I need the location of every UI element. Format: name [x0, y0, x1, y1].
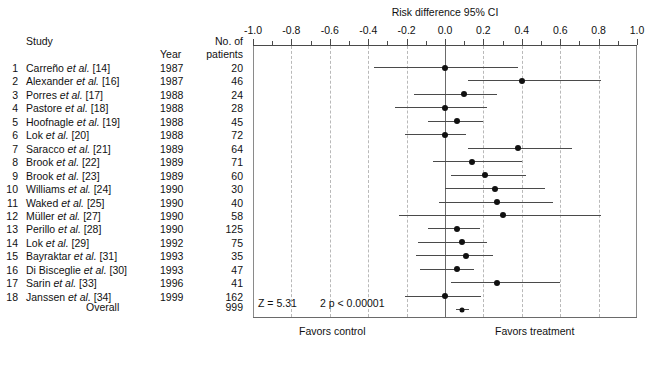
x-tick-label: -0.6 — [321, 24, 339, 36]
study-npatients: 45 — [200, 116, 243, 128]
study-npatients: 46 — [200, 75, 243, 87]
gridline — [291, 46, 292, 317]
point-estimate-marker — [442, 132, 448, 138]
row-index: 8 — [2, 156, 18, 168]
plot-bottom-border — [253, 317, 637, 318]
study-name: Pastore et al. [18] — [26, 102, 108, 114]
overall-npatients: 999 — [200, 302, 243, 313]
point-estimate-marker — [519, 78, 525, 84]
forest-plot-panel: Risk difference 95% CI -1.0-0.8-0.6-0.4-… — [253, 0, 637, 365]
row-index: 11 — [2, 197, 18, 209]
study-year: 1989 — [160, 156, 192, 168]
point-estimate-marker — [494, 280, 500, 286]
study-npatients: 64 — [200, 143, 243, 155]
point-estimate-marker — [442, 105, 448, 111]
gridline — [560, 46, 561, 317]
point-estimate-marker — [459, 239, 465, 245]
column-header-npatients-line1: No. of — [200, 36, 243, 47]
point-estimate-marker — [454, 266, 460, 272]
row-index: 14 — [2, 237, 18, 249]
study-year: 1993 — [160, 250, 192, 262]
study-npatients: 125 — [200, 223, 243, 235]
confidence-interval-line — [420, 269, 474, 270]
study-name: Carreño et al. [14] — [26, 62, 110, 74]
study-name: Waked et al. [25] — [26, 197, 104, 209]
row-index: 9 — [2, 170, 18, 182]
point-estimate-marker — [494, 199, 500, 205]
x-tick-label: 0.0 — [438, 24, 453, 36]
confidence-interval-line — [418, 242, 487, 243]
study-year: 1999 — [160, 291, 192, 303]
study-year: 1988 — [160, 89, 192, 101]
study-year: 1990 — [160, 183, 192, 195]
study-name: Saracco et al. [21] — [26, 143, 111, 155]
x-tick-label: -1.0 — [244, 24, 262, 36]
study-year: 1990 — [160, 223, 192, 235]
study-year: 1989 — [160, 170, 192, 182]
study-year: 1989 — [160, 143, 192, 155]
column-header-year: Year — [160, 49, 181, 60]
study-name: Lok et al. [29] — [26, 237, 89, 249]
study-name: Alexander et al. [16] — [26, 75, 119, 87]
favors-control-label: Favors control — [299, 325, 366, 337]
confidence-interval-line — [414, 94, 497, 95]
x-tick-label: 0.6 — [553, 24, 568, 36]
study-name: Di Bisceglie et al. [30] — [26, 264, 127, 276]
point-estimate-marker — [482, 172, 488, 178]
row-index: 16 — [2, 264, 18, 276]
study-npatients: 75 — [200, 237, 243, 249]
row-index: 5 — [2, 116, 18, 128]
plot-left-border — [253, 46, 254, 317]
x-tick-label: 0.8 — [591, 24, 606, 36]
p-value-label: 2 p < 0.00001 — [320, 297, 385, 309]
study-year: 1992 — [160, 237, 192, 249]
null-effect-line — [445, 46, 446, 317]
study-year: 1996 — [160, 277, 192, 289]
study-name: Hoofnagle et al. [19] — [26, 116, 120, 128]
gridline — [599, 46, 600, 317]
column-header-npatients-line2: patients — [200, 49, 243, 60]
x-tick-label: 1.0 — [630, 24, 645, 36]
study-year: 1987 — [160, 75, 192, 87]
study-table: Study Year No. of patients 1Carreño et a… — [0, 0, 250, 365]
study-npatients: 30 — [200, 183, 243, 195]
gridline — [407, 46, 408, 317]
point-estimate-marker — [500, 212, 506, 218]
row-index: 7 — [2, 143, 18, 155]
row-index: 18 — [2, 291, 18, 303]
row-index: 6 — [2, 129, 18, 141]
study-name: Lok et al. [20] — [26, 129, 89, 141]
study-year: 1990 — [160, 197, 192, 209]
row-index: 13 — [2, 223, 18, 235]
study-name: Williams et al. [24] — [26, 183, 111, 195]
gridline — [368, 46, 369, 317]
study-name: Sarin et al. [33] — [26, 277, 97, 289]
point-estimate-marker — [442, 65, 448, 71]
study-name: Brook et al. [23] — [26, 170, 100, 182]
study-npatients: 35 — [200, 250, 243, 262]
confidence-interval-line — [416, 255, 493, 256]
row-index: 12 — [2, 210, 18, 222]
study-name: Perillo et al. [28] — [26, 223, 101, 235]
point-estimate-marker — [461, 91, 467, 97]
point-estimate-marker — [460, 307, 465, 312]
study-npatients: 47 — [200, 264, 243, 276]
study-name: Porres et al. [17] — [26, 89, 103, 101]
favors-treatment-label: Favors treatment — [495, 325, 574, 337]
point-estimate-marker — [454, 118, 460, 124]
point-estimate-marker — [515, 145, 521, 151]
study-year: 1988 — [160, 129, 192, 141]
point-estimate-marker — [469, 159, 475, 165]
row-index: 15 — [2, 250, 18, 262]
gridline — [330, 46, 331, 317]
study-npatients: 60 — [200, 170, 243, 182]
overall-label: Overall — [86, 302, 119, 313]
study-name: Brook et al. [22] — [26, 156, 100, 168]
z-statistic-label: Z = 5.31 — [258, 297, 297, 309]
plot-right-border — [636, 46, 637, 317]
row-index: 2 — [2, 75, 18, 87]
study-name: Müller et al. [27] — [26, 210, 101, 222]
study-npatients: 20 — [200, 62, 243, 74]
study-npatients: 24 — [200, 89, 243, 101]
confidence-interval-line — [433, 161, 521, 162]
